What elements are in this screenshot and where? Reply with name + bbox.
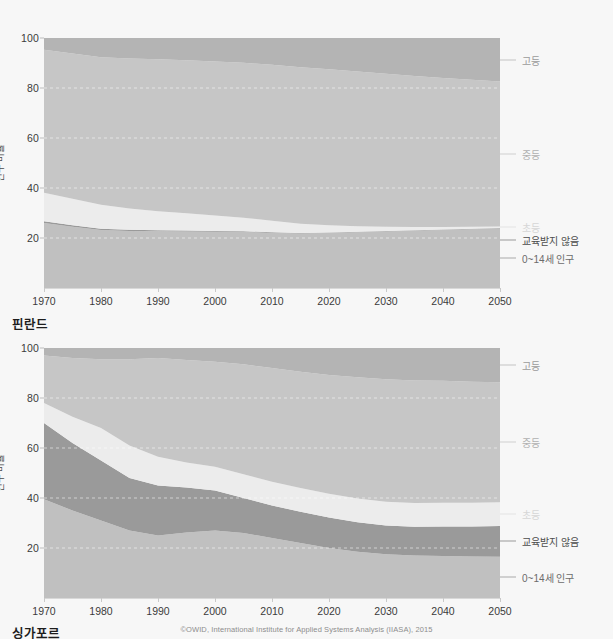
x-tick-label: 2000 bbox=[203, 295, 226, 307]
series-label-no_education: 교육받지 않음 bbox=[500, 233, 579, 248]
x-tick-mark bbox=[500, 288, 501, 292]
leader-line bbox=[500, 59, 516, 60]
y-tick-label: 20 bbox=[27, 232, 39, 244]
leader-line bbox=[500, 258, 516, 259]
chart-page: 인구 비율 10080604020 1970198019902000201020… bbox=[0, 0, 613, 639]
x-tick-label: 2000 bbox=[203, 605, 226, 617]
series-labels-singapore: 고등중등초등교육받지 않음0~14세 인구 bbox=[500, 348, 613, 598]
y-tick-label: 60 bbox=[27, 442, 39, 454]
stacked-area-finland bbox=[44, 38, 500, 288]
y-tick-label: 20 bbox=[27, 542, 39, 554]
series-label-tertiary: 고등 bbox=[500, 358, 540, 373]
leader-line bbox=[500, 240, 516, 241]
series-labels-finland: 고등중등초등교육받지 않음0~14세 인구 bbox=[500, 38, 613, 288]
leader-line bbox=[500, 577, 516, 578]
x-tick-mark bbox=[386, 288, 387, 292]
x-tick-label: 1970 bbox=[32, 605, 55, 617]
leader-line bbox=[500, 365, 516, 366]
plot-area-singapore bbox=[44, 348, 500, 598]
x-tick-label: 2050 bbox=[488, 295, 511, 307]
x-axis-finland: 197019801990200020102020203020402050 bbox=[44, 288, 500, 310]
x-tick-label: 2050 bbox=[488, 605, 511, 617]
y-tick-label: 100 bbox=[21, 32, 39, 44]
x-tick-mark bbox=[329, 288, 330, 292]
leader-line bbox=[500, 514, 516, 515]
x-tick-label: 2020 bbox=[317, 605, 340, 617]
x-axis-singapore: 197019801990200020102020203020402050 bbox=[44, 598, 500, 620]
y-axis-ticks-singapore: 10080604020 bbox=[0, 348, 44, 598]
area-svg-finland bbox=[44, 38, 500, 288]
x-tick-mark bbox=[272, 288, 273, 292]
series-label-text: 중등 bbox=[522, 147, 540, 162]
x-tick-mark bbox=[158, 598, 159, 602]
chart-panel-finland: 인구 비율 10080604020 1970198019902000201020… bbox=[0, 38, 613, 300]
leader-line bbox=[500, 442, 516, 443]
series-label-age_0_14: 0~14세 인구 bbox=[500, 251, 574, 266]
x-tick-mark bbox=[101, 288, 102, 292]
x-tick-mark bbox=[500, 598, 501, 602]
series-label-tertiary: 고등 bbox=[500, 52, 540, 67]
x-tick-label: 2010 bbox=[260, 605, 283, 617]
x-tick-mark bbox=[443, 598, 444, 602]
series-label-text: 교육받지 않음 bbox=[522, 534, 579, 549]
x-tick-mark bbox=[215, 598, 216, 602]
x-tick-mark bbox=[101, 598, 102, 602]
x-tick-label: 1980 bbox=[89, 605, 112, 617]
x-tick-label: 1980 bbox=[89, 295, 112, 307]
x-tick-label: 2040 bbox=[431, 605, 454, 617]
x-tick-label: 2030 bbox=[374, 295, 397, 307]
x-tick-mark bbox=[158, 288, 159, 292]
source-credit: ©OWID, International Institute for Appli… bbox=[0, 625, 613, 634]
x-tick-label: 1990 bbox=[146, 605, 169, 617]
y-tick-label: 40 bbox=[27, 182, 39, 194]
x-tick-mark bbox=[44, 288, 45, 292]
y-tick-label: 40 bbox=[27, 492, 39, 504]
series-label-primary: 초등 bbox=[500, 507, 540, 522]
y-tick-label: 80 bbox=[27, 82, 39, 94]
series-label-text: 고등 bbox=[522, 358, 540, 373]
x-tick-label: 1990 bbox=[146, 295, 169, 307]
leader-line bbox=[500, 227, 516, 228]
y-tick-label: 100 bbox=[21, 342, 39, 354]
x-tick-label: 1970 bbox=[32, 295, 55, 307]
series-label-text: 0~14세 인구 bbox=[522, 251, 574, 266]
x-tick-mark bbox=[272, 598, 273, 602]
series-label-secondary: 중등 bbox=[500, 147, 540, 162]
x-tick-mark bbox=[443, 288, 444, 292]
x-tick-mark bbox=[386, 598, 387, 602]
series-label-no_education: 교육받지 않음 bbox=[500, 534, 579, 549]
country-title-finland: 핀란드 bbox=[12, 314, 48, 333]
x-tick-label: 2010 bbox=[260, 295, 283, 307]
plot-area-finland bbox=[44, 38, 500, 288]
x-tick-label: 2030 bbox=[374, 605, 397, 617]
y-tick-label: 80 bbox=[27, 392, 39, 404]
leader-line bbox=[500, 154, 516, 155]
series-label-age_0_14: 0~14세 인구 bbox=[500, 570, 574, 585]
series-label-secondary: 중등 bbox=[500, 435, 540, 450]
series-label-text: 초등 bbox=[522, 507, 540, 522]
series-label-text: 중등 bbox=[522, 435, 540, 450]
y-tick-label: 60 bbox=[27, 132, 39, 144]
x-tick-mark bbox=[329, 598, 330, 602]
series-label-text: 교육받지 않음 bbox=[522, 233, 579, 248]
stacked-area-singapore bbox=[44, 348, 500, 598]
y-axis-ticks-finland: 10080604020 bbox=[0, 38, 44, 288]
x-tick-mark bbox=[44, 598, 45, 602]
leader-line bbox=[500, 541, 516, 542]
chart-panel-singapore: 인구 비율 10080604020 1970198019902000201020… bbox=[0, 348, 613, 610]
x-tick-mark bbox=[215, 288, 216, 292]
series-label-text: 0~14세 인구 bbox=[522, 570, 574, 585]
x-tick-label: 2040 bbox=[431, 295, 454, 307]
series-label-text: 고등 bbox=[522, 52, 540, 67]
x-tick-label: 2020 bbox=[317, 295, 340, 307]
area-svg-singapore bbox=[44, 348, 500, 598]
